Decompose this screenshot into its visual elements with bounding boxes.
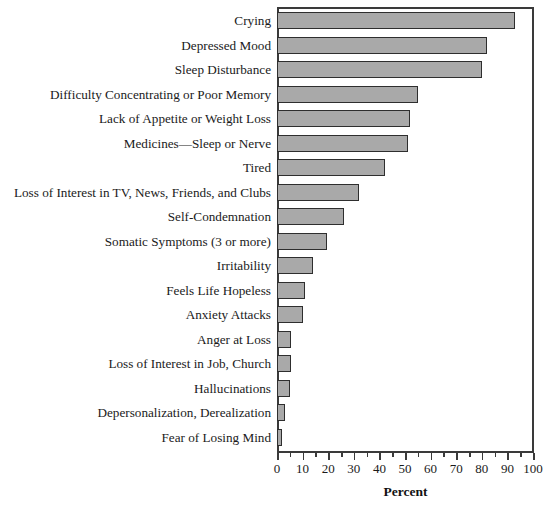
bar [277,257,313,274]
bar [277,86,418,103]
bar [277,208,344,225]
bar [277,404,285,421]
category-label: Feels Life Hopeless [166,279,271,304]
x-tick-major [482,453,484,460]
x-tick-label: 30 [347,461,360,477]
x-tick-major [456,453,458,460]
bar-chart: CryingDepressed MoodSleep DisturbanceDif… [0,0,555,513]
category-label: Sleep Disturbance [175,58,271,83]
x-tick-minor [443,453,445,457]
x-tick-minor [341,453,343,457]
category-label: Depersonalization, Derealization [97,401,271,426]
category-label: Hallucinations [194,377,271,402]
bar [277,282,305,299]
x-tick-minor [392,453,394,457]
category-label: Crying [234,9,271,34]
bar [277,380,290,397]
x-tick-label: 60 [424,461,437,477]
x-axis-title: Percent [277,484,534,500]
x-tick-major [379,453,381,460]
bar [277,12,515,29]
category-label: Anxiety Attacks [186,303,271,328]
category-label: Anger at Loss [197,328,271,353]
x-tick-major [431,453,433,460]
category-label: Medicines—Sleep or Nerve [124,132,271,157]
bar [277,355,291,372]
x-tick-minor [290,453,292,457]
category-label: Irritability [217,254,271,279]
x-tick-label: 70 [450,461,463,477]
bar [277,331,291,348]
bar [277,159,385,176]
category-label: Somatic Symptoms (3 or more) [105,230,271,255]
plot-area: CryingDepressed MoodSleep DisturbanceDif… [277,9,533,450]
category-label: Loss of Interest in Job, Church [108,352,271,377]
category-label: Loss of Interest in TV, News, Friends, a… [14,181,271,206]
bar [277,37,487,54]
x-tick-major [277,453,279,460]
x-tick-minor [495,453,497,457]
x-tick-minor [520,453,522,457]
x-tick-label: 20 [322,461,335,477]
x-tick-label: 80 [475,461,488,477]
x-tick-major [303,453,305,460]
x-tick-minor [418,453,420,457]
x-tick-major [533,453,535,460]
x-tick-label: 40 [373,461,386,477]
x-tick-minor [315,453,317,457]
x-tick-major [354,453,356,460]
category-label: Lack of Appetite or Weight Loss [99,107,271,132]
bar [277,135,408,152]
bar [277,429,282,446]
bar [277,233,327,250]
x-tick-major [507,453,509,460]
category-label: Self-Condemnation [168,205,271,230]
bar [277,61,482,78]
x-tick-label: 100 [523,461,543,477]
bar [277,306,303,323]
category-label: Fear of Losing Mind [161,426,271,451]
category-label: Tired [243,156,271,181]
x-tick-major [328,453,330,460]
x-tick-label: 50 [399,461,412,477]
x-tick-label: 90 [501,461,514,477]
category-label: Difficulty Concentrating or Poor Memory [50,83,271,108]
x-tick-label: 0 [274,461,281,477]
x-tick-minor [469,453,471,457]
bar [277,110,410,127]
x-tick-minor [367,453,369,457]
x-tick-major [405,453,407,460]
x-tick-label: 10 [296,461,309,477]
category-label: Depressed Mood [181,34,271,59]
bar [277,184,359,201]
